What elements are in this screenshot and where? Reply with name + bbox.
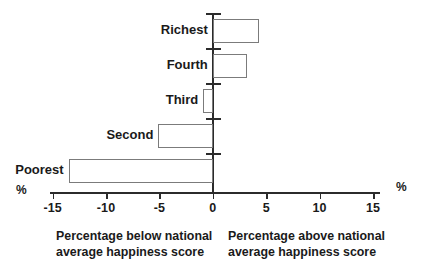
category-label-fourth: Fourth	[167, 57, 208, 72]
x-axis-tick	[320, 192, 322, 199]
x-axis-line	[50, 192, 380, 194]
x-axis-tick-label: 10	[313, 201, 327, 215]
x-axis-tick-label: 15	[366, 201, 380, 215]
bar-chart: PoorestSecondThirdFourthRichest -15-10-5…	[0, 0, 431, 273]
x-axis-unit-right: %	[396, 180, 407, 194]
x-axis-tick	[159, 192, 161, 199]
x-axis-tick-label: -10	[97, 201, 115, 215]
y-axis-tick	[206, 153, 221, 155]
x-axis-tick-label: -15	[43, 201, 61, 215]
plot-area: PoorestSecondThirdFourthRichest -15-10-5…	[0, 0, 431, 200]
x-axis-tick	[266, 192, 268, 199]
y-axis-tick	[206, 83, 221, 85]
x-axis-tick-label: -5	[154, 201, 165, 215]
y-axis-tick	[206, 48, 221, 50]
caption-below-average: Percentage below national average happin…	[56, 228, 212, 261]
category-label-third: Third	[166, 92, 199, 107]
x-axis-unit-left: %	[16, 183, 27, 197]
bar-third	[203, 89, 213, 113]
y-axis-tick	[206, 118, 221, 120]
x-axis-tick	[213, 192, 215, 199]
x-axis-tick	[53, 192, 55, 199]
caption-above-average: Percentage above national average happin…	[228, 228, 385, 261]
bar-fourth	[213, 54, 247, 78]
bar-second	[158, 124, 213, 148]
x-axis-tick-label: 5	[263, 201, 270, 215]
x-axis-tick	[106, 192, 108, 199]
category-label-richest: Richest	[161, 22, 208, 37]
bar-richest	[213, 19, 259, 43]
category-label-poorest: Poorest	[15, 162, 63, 177]
category-label-second: Second	[106, 127, 153, 142]
y-axis-tick	[206, 13, 221, 15]
x-axis-tick-label: 0	[209, 201, 216, 215]
x-axis-tick	[373, 192, 375, 199]
bar-poorest	[69, 159, 213, 183]
